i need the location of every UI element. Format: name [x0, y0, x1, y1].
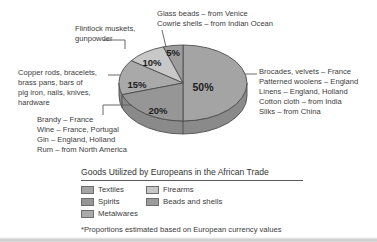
annotation-line: Silks – from China: [259, 107, 358, 117]
annotation-metalwares: Copper rods, bracelets, brass pans, bars…: [18, 68, 97, 108]
pie-percent-label-metalwares: 15%: [127, 79, 146, 90]
legend-swatch-textiles: [81, 186, 94, 194]
legend-swatch-firearms: [146, 186, 159, 194]
annotation-line: gunpowder: [75, 34, 135, 44]
annotation-line: Gin – England, Holland: [37, 135, 127, 145]
annotation-beads-and-shells: Glass beads – from Venice Cowrie shells …: [157, 9, 273, 29]
annotation-line: Linens – England, Holland: [259, 87, 358, 97]
pie-percent-label-firearms: 10%: [142, 57, 161, 68]
annotation-line: Brandy – France: [37, 115, 127, 125]
legend-item-textiles: Textiles: [81, 185, 124, 194]
pie-percent-label-textiles: 50%: [192, 81, 213, 93]
legend-label: Beads and shells: [163, 197, 222, 206]
legend-label: Firearms: [163, 185, 194, 194]
annotation-line: Cowrie shells – from Indian Ocean: [157, 19, 273, 29]
annotation-line: Rum – from North America: [37, 145, 127, 155]
leader-line-beads-and-shells: [162, 30, 166, 47]
pie-percent-label-beads-and-shells: 5%: [166, 47, 180, 58]
legend-label: Textiles: [98, 185, 124, 194]
annotation-firearms: Flintlock muskets, gunpowder: [75, 24, 135, 44]
annotation-line: brass pans, bars of: [18, 78, 97, 88]
annotation-line: hardware: [18, 98, 97, 108]
legend-swatch-spirits: [81, 198, 94, 206]
annotation-line: Glass beads – from Venice: [157, 9, 273, 19]
annotation-line: Brocades, velvets – France: [259, 67, 358, 77]
legend-item-metalwares: Metalwares: [81, 209, 138, 218]
page-edge-shadow: [0, 237, 377, 242]
legend-item-beads-and-shells: Beads and shells: [146, 197, 222, 206]
legend-item-spirits: Spirits: [81, 197, 120, 206]
annotation-line: Flintlock muskets,: [75, 24, 135, 34]
legend-item-firearms: Firearms: [146, 185, 194, 194]
legend-label: Metalwares: [98, 209, 138, 218]
legend-swatch-beads-and-shells: [146, 198, 159, 206]
annotation-line: pig iron, nails, knives,: [18, 88, 97, 98]
annotation-line: Cotton cloth – from India: [259, 97, 358, 107]
annotation-spirits: Brandy – France Wine – France, Portugal …: [37, 115, 127, 155]
pie-percent-label-spirits: 20%: [148, 105, 167, 116]
legend-label: Spirits: [98, 197, 120, 206]
trade-goods-pie-figure: 50% 10% 20% 5% 15% Glass beads – from Ve…: [0, 0, 377, 242]
annotation-textiles: Brocades, velvets – France Patterned woo…: [259, 67, 358, 117]
annotation-line: Copper rods, bracelets,: [18, 68, 97, 78]
annotation-line: Wine – France, Portugal: [37, 125, 127, 135]
legend-title: Goods Utilized by Europeans in the Afric…: [81, 167, 303, 181]
legend-swatch-metalwares: [81, 210, 94, 218]
footnote: *Proportions estimated based on European…: [81, 225, 282, 234]
annotation-line: Patterned woolens – England: [259, 77, 358, 87]
